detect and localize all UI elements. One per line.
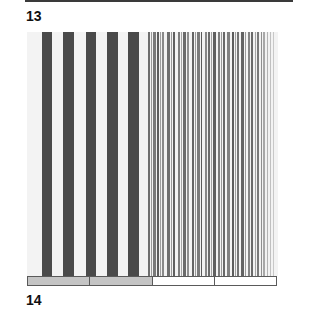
stripe-pattern-panel <box>27 32 278 276</box>
legend-block <box>27 276 90 286</box>
fine-stripe <box>241 32 244 276</box>
legend-block <box>90 276 152 286</box>
fine-stripe <box>237 32 239 276</box>
fine-stripe <box>162 32 164 276</box>
fine-stripe <box>181 32 182 276</box>
legend-block <box>215 276 277 286</box>
fine-stripe <box>232 32 234 276</box>
fine-stripe <box>167 32 170 276</box>
wide-bar <box>128 32 139 276</box>
fine-stripe <box>213 32 216 276</box>
fine-stripe <box>205 32 207 276</box>
legend-block <box>153 276 215 286</box>
fine-stripe <box>257 32 259 276</box>
block-legend-strip <box>27 276 277 286</box>
fine-stripe <box>192 32 194 276</box>
wide-bar <box>63 32 74 276</box>
wide-bar <box>86 32 96 276</box>
fine-stripe <box>261 32 262 276</box>
top-rule <box>25 0 293 2</box>
wide-bar <box>107 32 118 276</box>
fine-stripe <box>223 32 225 276</box>
fine-stripe <box>195 32 196 276</box>
fine-stripe <box>211 32 212 276</box>
wide-bar <box>42 32 52 276</box>
fine-stripe <box>218 32 220 276</box>
fine-stripe <box>267 32 268 276</box>
fine-stripe <box>157 32 159 276</box>
fine-stripe <box>151 32 152 276</box>
fine-stripe <box>251 32 253 276</box>
fine-stripe <box>227 32 230 276</box>
figure-number-top: 13 <box>26 9 42 23</box>
fine-stripe <box>245 32 246 276</box>
fine-stripe <box>255 32 256 276</box>
fine-stripe <box>270 32 271 276</box>
fine-stripe <box>173 32 175 276</box>
fine-stripe <box>183 32 186 276</box>
fine-stripe <box>248 32 250 276</box>
fine-stripe <box>235 32 236 276</box>
fine-stripe <box>208 32 210 276</box>
figure-number-bottom: 14 <box>26 293 42 307</box>
fine-stripe <box>187 32 189 276</box>
fine-stripe <box>153 32 156 276</box>
fine-stripe <box>263 32 265 276</box>
fine-stripe <box>201 32 202 276</box>
fine-stripe <box>160 32 161 276</box>
fine-stripe <box>171 32 172 276</box>
fine-stripe <box>221 32 222 276</box>
fine-stripe <box>273 32 274 276</box>
fine-stripe <box>148 32 150 276</box>
fine-stripe <box>197 32 200 276</box>
fine-stripe <box>178 32 180 276</box>
